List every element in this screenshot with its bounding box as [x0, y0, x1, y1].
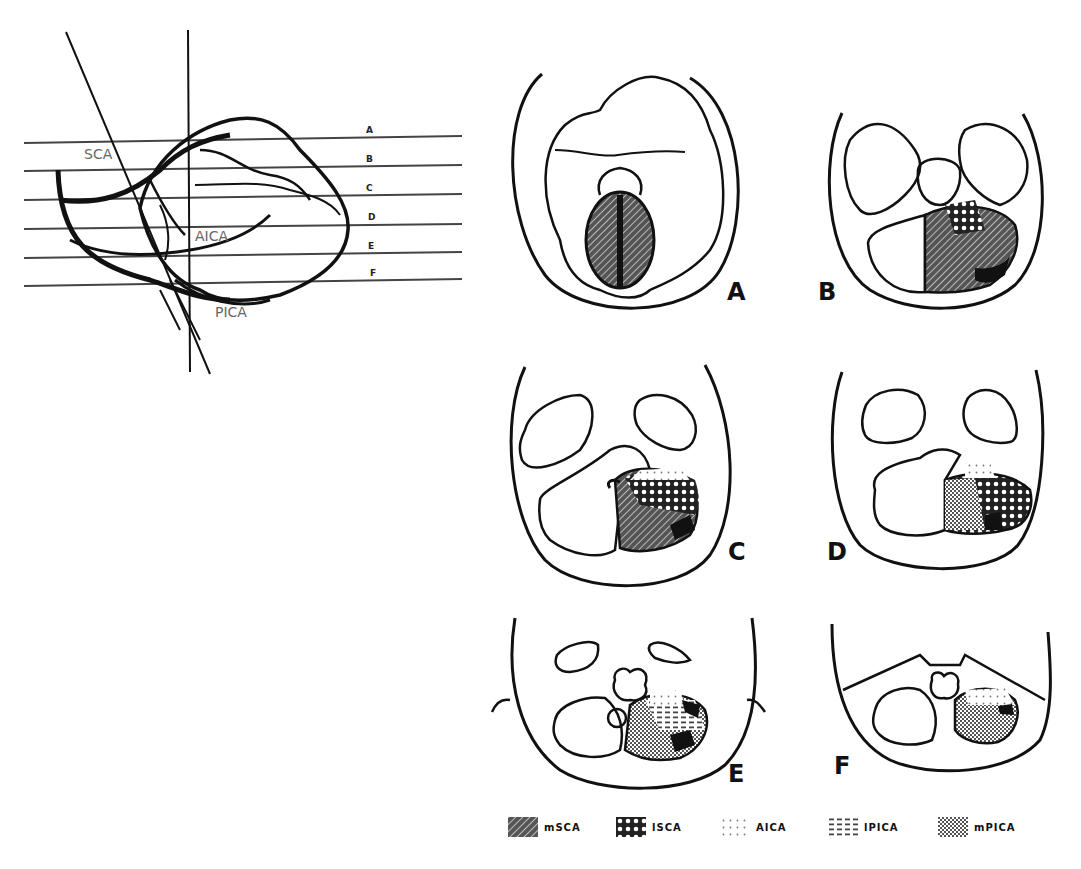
section-line-label-e: E [368, 241, 374, 251]
axial-panel-d [832, 370, 1042, 569]
section-line-label-f: F [370, 268, 376, 278]
legend-label: lPICA [864, 822, 899, 833]
panel-label-a: A [727, 278, 746, 306]
panel-label-c: C [728, 538, 746, 566]
legend-item-mPICA: mPICA [938, 814, 1016, 840]
crosshatch-swatch-icon [616, 817, 646, 837]
dashes-swatch-icon [828, 817, 858, 837]
legend-label: mSCA [544, 822, 581, 833]
legend-item-lPICA: lPICA [828, 814, 899, 840]
panel-label-d: D [827, 538, 847, 566]
label-pica: PICA [215, 304, 247, 320]
panel-label-b: B [818, 278, 836, 306]
section-line-label-d: D [368, 212, 375, 222]
axial-panel-b [829, 113, 1042, 308]
axial-panel-f [832, 624, 1050, 771]
section-line-label-b: B [366, 154, 373, 164]
figure-canvas [0, 0, 1081, 869]
legend: mSCA lSCA AICA lPICA mPICA [508, 814, 1058, 840]
section-line-label-c: C [366, 183, 373, 193]
axial-panel-e [492, 618, 765, 788]
dots-swatch-icon [720, 817, 750, 837]
legend-label: mPICA [974, 822, 1016, 833]
legend-label: lSCA [652, 822, 682, 833]
legend-item-mSCA: mSCA [508, 814, 581, 840]
panel-label-e: E [728, 760, 744, 788]
label-aica: AICA [195, 228, 228, 244]
legend-item-AICA: AICA [720, 814, 787, 840]
axial-panel-c [511, 365, 730, 586]
legend-label: AICA [756, 822, 787, 833]
panel-label-f: F [834, 752, 850, 780]
hatch-swatch-icon [508, 817, 538, 837]
axial-panel-a [513, 74, 739, 308]
legend-item-lSCA: lSCA [616, 814, 682, 840]
sagittal-diagram [24, 30, 462, 374]
label-sca: SCA [84, 146, 112, 162]
section-line-label-a: A [366, 125, 373, 135]
checker-swatch-icon [938, 817, 968, 837]
